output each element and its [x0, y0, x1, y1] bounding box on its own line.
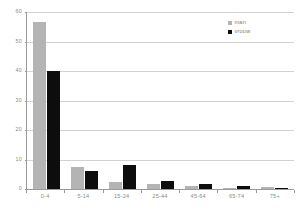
x-axis-labels: 0-45-1415-2425-4445-6465-7475+	[26, 194, 294, 200]
bar-vrouw-15-24	[123, 165, 136, 189]
bar-group	[218, 12, 256, 189]
x-tick-label: 0-4	[26, 194, 64, 200]
bar-vrouw-75+	[275, 188, 288, 189]
x-tick-mark	[294, 190, 295, 193]
bar-chart: 0102030405060 0-45-1415-2425-4445-6465-7…	[0, 0, 302, 218]
x-tick-mark	[217, 190, 218, 193]
y-tick-label: 0	[0, 186, 22, 191]
bar-group	[180, 12, 218, 189]
x-tick-label: 45-64	[179, 194, 217, 200]
bar-vrouw-0-4	[47, 71, 60, 189]
bar-man-5-14	[71, 167, 84, 189]
x-tick-mark	[256, 190, 257, 193]
chart-legend: manvrouw	[228, 18, 250, 36]
bar-man-15-24	[109, 182, 122, 189]
x-tick-mark	[141, 190, 142, 193]
y-tick-label: 30	[0, 98, 22, 103]
bar-man-25-44	[147, 184, 160, 189]
y-tick-label: 60	[0, 9, 22, 14]
y-tick-label: 50	[0, 39, 22, 44]
bar-group	[103, 12, 141, 189]
bars-layer	[27, 12, 294, 189]
bar-vrouw-25-44	[161, 181, 174, 189]
bar-man-45-64	[185, 186, 198, 189]
legend-swatch-vrouw-icon	[228, 30, 232, 34]
legend-label: vrouw	[235, 29, 251, 35]
bar-vrouw-45-64	[199, 184, 212, 189]
legend-item-man[interactable]: man	[228, 18, 250, 27]
x-tick-label: 25-44	[141, 194, 179, 200]
x-tick-label: 75+	[256, 194, 294, 200]
legend-item-vrouw[interactable]: vrouw	[228, 27, 250, 36]
bar-man-75+	[261, 187, 274, 189]
x-tick-mark	[179, 190, 180, 193]
bar-man-65-74	[223, 188, 236, 189]
plot-area	[26, 12, 294, 190]
bar-group	[27, 12, 65, 189]
bar-group	[65, 12, 103, 189]
legend-swatch-man-icon	[228, 21, 232, 25]
bar-group	[256, 12, 294, 189]
y-tick-label: 10	[0, 157, 22, 162]
legend-label: man	[235, 20, 246, 26]
bar-man-0-4	[33, 22, 46, 189]
bar-vrouw-65-74	[237, 186, 250, 189]
x-tick-mark	[26, 190, 27, 193]
bar-vrouw-5-14	[85, 171, 98, 189]
x-tick-mark	[64, 190, 65, 193]
x-tick-label: 65-74	[217, 194, 255, 200]
bar-group	[141, 12, 179, 189]
x-tick-mark	[103, 190, 104, 193]
y-tick-label: 20	[0, 127, 22, 132]
y-tick-label: 40	[0, 68, 22, 73]
x-tick-label: 15-24	[103, 194, 141, 200]
x-tick-label: 5-14	[64, 194, 102, 200]
